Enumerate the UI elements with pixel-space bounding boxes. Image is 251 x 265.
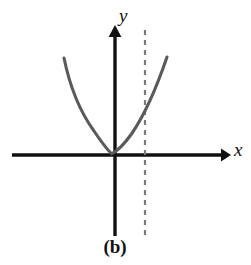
- figure-panel-b: y x (b): [0, 0, 251, 265]
- y-axis: [109, 25, 122, 236]
- x-axis-label: x: [234, 140, 242, 159]
- x-axis-arrowhead-icon: [221, 149, 231, 162]
- graph-canvas: [0, 0, 251, 265]
- x-axis: [12, 149, 231, 162]
- y-axis-arrowhead-icon: [109, 25, 122, 37]
- y-axis-label: y: [119, 6, 127, 25]
- panel-caption: (b): [0, 237, 230, 256]
